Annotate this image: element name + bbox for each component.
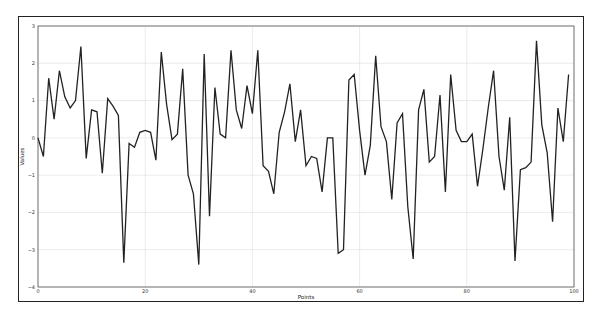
- y-axis-label: Values: [19, 147, 25, 165]
- y-tick-label: −2: [28, 209, 35, 215]
- y-tick-label: −1: [28, 172, 35, 178]
- x-tick-label: 60: [356, 288, 362, 294]
- y-tick-label: −3: [28, 247, 35, 253]
- y-tick-label: 1: [32, 97, 35, 103]
- plot-area: [38, 26, 574, 287]
- x-tick-label: 40: [249, 288, 255, 294]
- y-tick-label: −4: [28, 284, 35, 290]
- grid-lines: [38, 26, 574, 287]
- x-tick-label: 100: [569, 288, 579, 294]
- y-tick-label: 3: [32, 23, 35, 29]
- y-tick-label: 0: [32, 135, 35, 141]
- line-chart: −4−3−2−10123 020406080100 Points Values: [0, 0, 603, 317]
- y-axis-ticks: −4−3−2−10123: [28, 23, 35, 290]
- data-series-line: [38, 41, 569, 265]
- x-tick-label: 20: [142, 288, 148, 294]
- x-tick-label: 80: [464, 288, 470, 294]
- x-tick-label: 0: [36, 288, 39, 294]
- x-axis-label: Points: [298, 294, 315, 300]
- y-tick-label: 2: [32, 60, 35, 66]
